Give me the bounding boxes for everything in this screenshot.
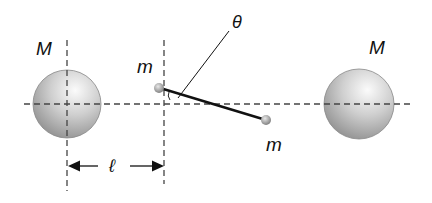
label-big-mass-right: M bbox=[369, 37, 385, 58]
distance-arrow bbox=[68, 161, 164, 172]
label-distance-ell: ℓ bbox=[108, 156, 116, 176]
label-small-mass-top: m bbox=[137, 56, 153, 77]
small-sphere-top bbox=[154, 83, 164, 93]
label-small-mass-bottom: m bbox=[266, 134, 282, 155]
label-big-mass-left: M bbox=[36, 38, 52, 59]
small-sphere-bottom bbox=[261, 115, 271, 125]
theta-reference-line bbox=[178, 31, 229, 98]
angle-arc bbox=[168, 92, 170, 100]
torsion-balance-diagram: M M m m θ ℓ bbox=[0, 0, 432, 203]
label-angle-theta: θ bbox=[232, 12, 242, 32]
